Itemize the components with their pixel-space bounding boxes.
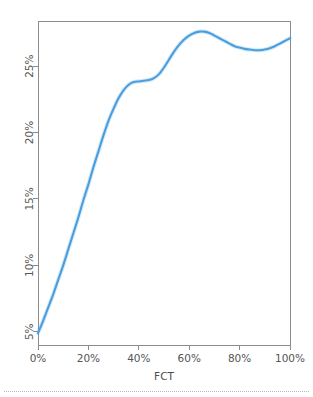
x-tick-label: 40%	[127, 352, 150, 364]
footer-divider	[4, 390, 309, 392]
chart-container: 5%10%15%20%25% 0%20%40%60%80%100% FCT	[0, 0, 313, 397]
y-tick-label: 25%	[23, 54, 35, 77]
x-axis-ticks	[38, 345, 290, 350]
y-tick-label: 20%	[23, 121, 35, 144]
series-line-glow	[38, 31, 290, 333]
x-axis-tick-labels: 0%20%40%60%80%100%	[30, 352, 305, 364]
line-chart: 5%10%15%20%25% 0%20%40%60%80%100% FCT	[0, 0, 313, 397]
y-tick-label: 10%	[23, 254, 35, 277]
x-tick-label: 60%	[178, 352, 201, 364]
x-tick-label: 100%	[275, 352, 305, 364]
x-tick-label: 20%	[77, 352, 100, 364]
x-tick-label: 0%	[30, 352, 47, 364]
y-axis-tick-labels: 5%10%15%20%25%	[23, 54, 35, 340]
series-line-0	[38, 31, 290, 333]
x-axis-title: FCT	[154, 370, 174, 382]
y-tick-label: 15%	[23, 187, 35, 210]
x-tick-label: 80%	[228, 352, 251, 364]
y-tick-label: 5%	[23, 323, 35, 340]
data-series-group	[38, 31, 290, 333]
